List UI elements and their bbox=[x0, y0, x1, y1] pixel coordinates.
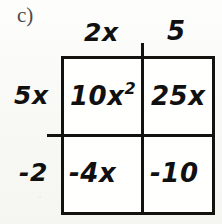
cell-row2-col2: -10 bbox=[150, 159, 198, 186]
column-divider-line bbox=[141, 43, 144, 215]
area-model-worksheet: c) 2x 5 5x -2 10x2 25x -4x -10 bbox=[0, 0, 222, 224]
cell-row1-col1: 10x2 bbox=[70, 82, 136, 109]
cell-row1-col2-base: 25x bbox=[151, 81, 205, 111]
cell-row1-col1-exponent: 2 bbox=[124, 79, 136, 98]
cell-row1-col1-base: 10x bbox=[70, 81, 124, 111]
cell-row2-col1: -4x bbox=[69, 159, 116, 186]
column-header-1: 2x bbox=[84, 20, 119, 45]
row-header-2: -2 bbox=[19, 160, 48, 185]
problem-label: c) bbox=[17, 3, 33, 27]
row-header-1: 5x bbox=[14, 83, 49, 108]
cell-row2-col1-base: -4x bbox=[69, 158, 116, 188]
row-divider-line bbox=[47, 134, 215, 137]
cell-row1-col2: 25x bbox=[151, 82, 205, 109]
column-header-2: 5 bbox=[167, 18, 186, 44]
cell-row2-col2-base: -10 bbox=[150, 158, 198, 188]
